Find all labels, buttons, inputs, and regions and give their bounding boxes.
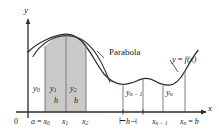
ordinate-sub-yn: n bbox=[170, 91, 173, 97]
x-tick-sub-2: 2 bbox=[86, 120, 89, 126]
x-tick-sub-3: n − 1 bbox=[156, 120, 168, 126]
strip-width-label-second: h bbox=[74, 97, 78, 105]
ordinate-label-yn-1: yn − 1 bbox=[126, 88, 142, 98]
ordinate-label-yn: yn bbox=[166, 88, 173, 98]
ordinate-sub-y0: 0 bbox=[37, 87, 40, 93]
function-label-arg: (x) bbox=[187, 54, 196, 64]
function-label: y=f(x) bbox=[172, 55, 196, 64]
x-tick-sub-1: 1 bbox=[66, 120, 69, 126]
x-tick-label-xn-1: xn − 1 bbox=[152, 118, 167, 127]
shaded-region bbox=[45, 34, 86, 112]
ordinate-label-y1: y1 bbox=[50, 84, 57, 94]
x-tick-label-xn: xn=b bbox=[180, 118, 199, 127]
x-tick-label-x2: x2 bbox=[82, 118, 88, 127]
x-tick-sub-4: n bbox=[184, 120, 187, 126]
x-tick-eq-4: = bbox=[188, 117, 193, 126]
x-tick-label-x0: a=x0 bbox=[31, 118, 50, 127]
origin-label: 0 bbox=[14, 118, 18, 126]
x-tick-eq-0: = bbox=[37, 117, 42, 126]
parabola-label: Parabola bbox=[109, 48, 141, 57]
ordinate-sub-yn-1: n − 1 bbox=[130, 91, 143, 97]
y-axis-label: y bbox=[24, 6, 28, 15]
x-tick-sub-0: 0 bbox=[47, 120, 50, 126]
function-label-eq: = bbox=[178, 54, 183, 64]
ordinate-label-y2: y2 bbox=[70, 84, 77, 94]
simpsons-rule-figure: y x 0 Parabola y=f(x) y0 y1 y2 yn − 1 yn… bbox=[0, 0, 219, 140]
h-bracket-label: ⊢h⊣ bbox=[119, 118, 137, 126]
function-label-y: y bbox=[172, 54, 176, 64]
ordinate-label-y0: y0 bbox=[33, 84, 40, 94]
h-bracket-right-arrow: ⊣ bbox=[130, 117, 137, 126]
x-tick-label-x1: x1 bbox=[62, 118, 68, 127]
x-tick-b: b bbox=[195, 117, 199, 126]
strip-width-label-first: h bbox=[54, 97, 58, 105]
x-tick-a: a bbox=[31, 117, 35, 126]
x-axis-label: x bbox=[208, 104, 212, 113]
ordinate-sub-y2: 2 bbox=[74, 87, 77, 93]
ordinate-sub-y1: 1 bbox=[54, 87, 57, 93]
h-bracket-left-arrow: ⊢ bbox=[119, 117, 126, 126]
